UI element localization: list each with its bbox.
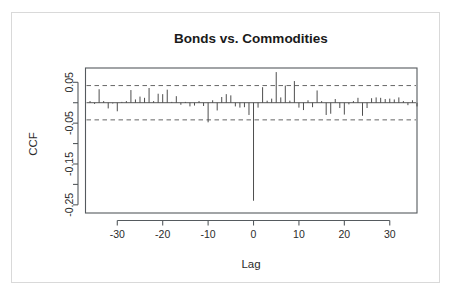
y-tick-label: 0.05 (64, 72, 76, 93)
y-axis-tick-labels: 0.05-0.05-0.15-0.25 (64, 72, 76, 217)
y-axis-label: CCF (27, 132, 39, 156)
x-tick-label: 20 (338, 228, 350, 240)
x-tick-label: -10 (201, 228, 216, 240)
x-tick-label: -20 (155, 228, 170, 240)
plot-area-border (86, 68, 418, 213)
x-tick-label: -30 (110, 228, 125, 240)
x-axis-tick-labels: -30-20-100102030 (110, 228, 396, 240)
ccf-bars (90, 72, 417, 201)
x-tick-label: 0 (251, 228, 257, 240)
x-tick-label: 30 (384, 228, 396, 240)
y-tick-label: -0.05 (64, 111, 76, 135)
x-axis-ticks (117, 221, 389, 226)
y-tick-label: -0.25 (64, 193, 76, 217)
x-axis-label: Lag (241, 258, 260, 270)
ccf-chart: Bonds vs. Commodities CCF Lag 0.05-0.05-… (0, 0, 455, 298)
page-title: Bonds vs. Commodities (174, 31, 328, 46)
x-tick-label: 10 (293, 228, 305, 240)
y-tick-label: -0.15 (64, 152, 76, 176)
